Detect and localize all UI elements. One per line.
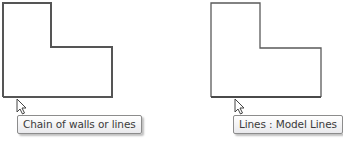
left-l-shape[interactable] bbox=[3, 3, 112, 97]
tooltip-model-lines: Lines : Model Lines bbox=[233, 115, 343, 134]
arrow-pointer-icon bbox=[234, 98, 246, 116]
right-l-shape-outline[interactable] bbox=[211, 3, 321, 97]
right-l-shape[interactable] bbox=[211, 3, 321, 97]
left-l-shape-outline[interactable] bbox=[3, 3, 112, 97]
arrow-pointer-icon bbox=[16, 98, 28, 116]
tooltip-chain-of-walls: Chain of walls or lines bbox=[17, 115, 142, 134]
